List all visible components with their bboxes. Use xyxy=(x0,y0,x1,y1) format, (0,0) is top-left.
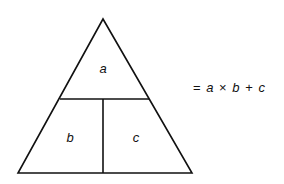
triangle-outline xyxy=(18,19,192,173)
eq-c: c xyxy=(258,80,266,95)
cell-top-label: a xyxy=(99,61,106,76)
plus-sign: + xyxy=(245,80,254,95)
eq-a: a xyxy=(206,80,214,95)
eq-b: b xyxy=(232,80,240,95)
equation: = a × b + c xyxy=(193,80,266,95)
diagram-canvas: a b c = a × b + c xyxy=(0,0,284,184)
cell-bottom-left-label: b xyxy=(66,130,73,145)
cell-bottom-right-label: c xyxy=(133,130,140,145)
times-sign: × xyxy=(219,80,228,95)
equals-sign: = xyxy=(193,80,202,95)
